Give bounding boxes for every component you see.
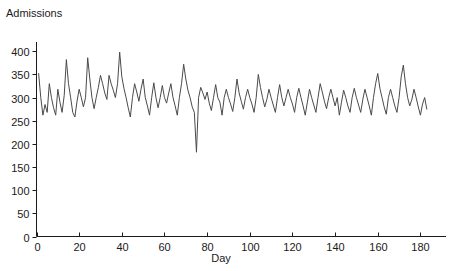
x-tick-label: 40 <box>116 241 128 253</box>
x-axis-title: Day <box>0 252 450 265</box>
y-tick-label: 400 <box>11 46 29 58</box>
y-axis-ticks <box>33 52 37 238</box>
x-axis-title-text: Day <box>211 252 231 264</box>
x-tick-label: 80 <box>201 241 213 253</box>
y-tick-label: 100 <box>11 185 29 197</box>
x-axis-tick-labels: 020406080100120140160180 <box>34 241 429 253</box>
x-axis-ticks <box>38 233 421 237</box>
x-tick-label: 60 <box>158 241 170 253</box>
y-axis: 050100150200250300350400 <box>11 42 36 244</box>
y-tick-label: 350 <box>11 69 29 81</box>
x-tick-label: 120 <box>283 241 301 253</box>
admissions-time-series-chart: Admissions 050100150200250300350400 0204… <box>0 0 450 271</box>
y-tick-label: 0 <box>23 232 29 244</box>
x-tick-label: 100 <box>241 241 259 253</box>
admissions-series-line <box>39 52 427 152</box>
x-tick-label: 0 <box>34 241 40 253</box>
y-tick-label: 150 <box>11 162 29 174</box>
y-tick-label: 50 <box>17 208 29 220</box>
y-tick-label: 300 <box>11 93 29 105</box>
x-tick-label: 160 <box>369 241 387 253</box>
x-axis: 020406080100120140160180 <box>34 233 446 253</box>
x-tick-label: 180 <box>411 241 429 253</box>
x-tick-label: 140 <box>326 241 344 253</box>
y-tick-label: 200 <box>11 139 29 151</box>
x-tick-label: 20 <box>73 241 85 253</box>
chart-plot-area: 050100150200250300350400 020406080100120… <box>0 0 450 271</box>
y-axis-tick-labels: 050100150200250300350400 <box>11 46 29 244</box>
y-tick-label: 250 <box>11 116 29 128</box>
